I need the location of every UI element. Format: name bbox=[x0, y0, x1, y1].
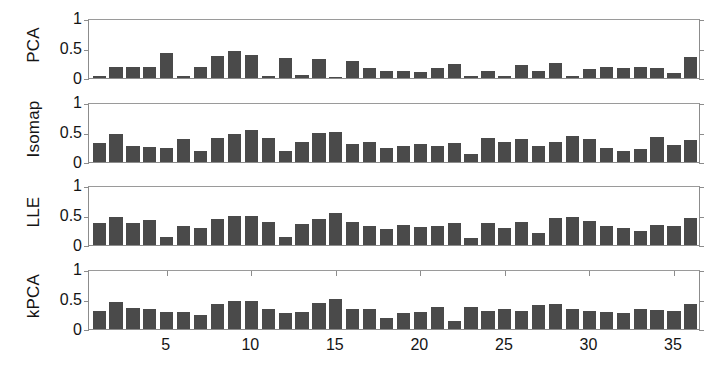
bar bbox=[262, 76, 275, 78]
y-tick-labels: 00.51 bbox=[40, 89, 82, 169]
bar bbox=[312, 219, 325, 245]
bar bbox=[109, 302, 122, 329]
bar bbox=[380, 148, 393, 162]
bar bbox=[448, 321, 461, 329]
bar bbox=[667, 226, 680, 245]
bar bbox=[600, 226, 613, 245]
bar bbox=[464, 76, 477, 78]
bar bbox=[160, 148, 173, 162]
y-tick-label: 1 bbox=[73, 95, 82, 111]
bar bbox=[363, 142, 376, 162]
bar bbox=[245, 301, 258, 329]
bar bbox=[617, 151, 630, 162]
bar bbox=[295, 224, 308, 245]
y-tick-mark bbox=[699, 163, 704, 164]
bar-series-lle bbox=[89, 187, 699, 245]
x-tick-label: 35 bbox=[664, 336, 682, 354]
y-tick-label: 0 bbox=[73, 238, 82, 254]
bar bbox=[93, 143, 106, 162]
bar bbox=[194, 228, 207, 245]
bar bbox=[498, 76, 511, 78]
bar bbox=[93, 311, 106, 329]
bar bbox=[160, 312, 173, 329]
y-tick-label: 0.5 bbox=[60, 208, 82, 224]
y-tick-labels: 00.51 bbox=[40, 256, 82, 336]
bar bbox=[566, 136, 579, 162]
y-tick-mark bbox=[699, 79, 704, 80]
bar bbox=[126, 146, 139, 162]
y-tick-mark bbox=[84, 246, 89, 247]
x-tick-label: 15 bbox=[326, 336, 344, 354]
y-tick-mark bbox=[84, 163, 89, 164]
bar bbox=[532, 233, 545, 245]
bar bbox=[566, 309, 579, 329]
bar bbox=[363, 309, 376, 329]
bar bbox=[583, 139, 596, 162]
bar bbox=[126, 67, 139, 78]
bar bbox=[464, 238, 477, 245]
bar bbox=[279, 58, 292, 78]
bar bbox=[143, 67, 156, 78]
bar bbox=[634, 309, 647, 329]
bar bbox=[380, 71, 393, 78]
plot-area-isomap bbox=[88, 103, 700, 163]
bar bbox=[211, 304, 224, 329]
bar bbox=[126, 223, 139, 245]
bar bbox=[634, 67, 647, 78]
bar bbox=[464, 154, 477, 162]
bar bbox=[481, 223, 494, 245]
bar bbox=[143, 220, 156, 245]
y-tick-mark bbox=[699, 187, 704, 188]
bar bbox=[329, 132, 342, 162]
bar bbox=[397, 71, 410, 78]
x-tick-label: 30 bbox=[580, 336, 598, 354]
bar bbox=[194, 315, 207, 329]
bar bbox=[329, 213, 342, 245]
bar bbox=[600, 312, 613, 329]
bar bbox=[177, 312, 190, 329]
y-tick-label: 0 bbox=[73, 71, 82, 87]
y-tick-label: 0.5 bbox=[60, 292, 82, 308]
bar bbox=[312, 133, 325, 162]
y-tick-mark bbox=[699, 217, 704, 218]
bar bbox=[262, 309, 275, 329]
bar bbox=[431, 68, 444, 78]
bar bbox=[431, 226, 444, 245]
y-tick-label: 0.5 bbox=[60, 41, 82, 57]
bar bbox=[346, 309, 359, 329]
y-tick-labels: 00.51 bbox=[40, 5, 82, 85]
bar bbox=[380, 229, 393, 245]
bar bbox=[211, 56, 224, 78]
bar bbox=[498, 228, 511, 245]
bar-series-pca bbox=[89, 20, 699, 78]
y-tick-label: 0 bbox=[73, 155, 82, 171]
bar bbox=[549, 218, 562, 245]
y-tick-label: 1 bbox=[73, 11, 82, 27]
y-tick-mark bbox=[699, 104, 704, 105]
bar bbox=[414, 72, 427, 78]
plot-area-pca bbox=[88, 19, 700, 79]
bar-series-kpca bbox=[89, 271, 699, 329]
bar bbox=[549, 304, 562, 329]
bar bbox=[262, 138, 275, 162]
bar bbox=[515, 311, 528, 329]
bar bbox=[329, 299, 342, 329]
x-tick-label: 25 bbox=[495, 336, 513, 354]
bar bbox=[93, 76, 106, 78]
y-tick-mark bbox=[699, 246, 704, 247]
bar bbox=[109, 217, 122, 245]
bar bbox=[414, 227, 427, 245]
bar bbox=[634, 149, 647, 162]
bar bbox=[279, 151, 292, 162]
bar bbox=[177, 226, 190, 245]
bar bbox=[684, 218, 697, 245]
bar bbox=[228, 51, 241, 78]
bar bbox=[667, 73, 680, 78]
bar bbox=[329, 77, 342, 78]
x-tick-label: 5 bbox=[161, 336, 170, 354]
bar-series-isomap bbox=[89, 104, 699, 162]
bar bbox=[143, 147, 156, 162]
bar bbox=[684, 304, 697, 329]
bar bbox=[93, 223, 106, 245]
bar bbox=[397, 313, 410, 329]
